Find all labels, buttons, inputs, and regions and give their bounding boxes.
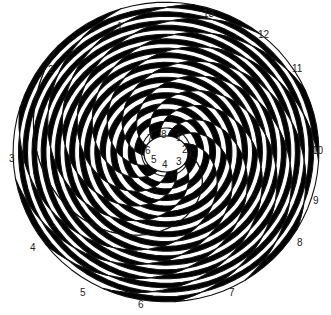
outer-spiral-label: 2 (48, 65, 54, 75)
inner-spiral-label: 4 (162, 160, 168, 170)
inner-spiral-label: 8 (161, 130, 167, 140)
outer-spiral-label: 13 (203, 9, 214, 19)
inner-spiral-label: 2 (182, 145, 188, 155)
outer-spiral-label: 5 (80, 288, 86, 298)
outer-spiral-label: 1 (117, 22, 123, 32)
outer-spiral-label: 9 (313, 196, 319, 206)
inner-spiral-label: 1 (176, 133, 182, 143)
inner-spiral-label: 7 (147, 134, 153, 144)
phyllotaxis-diagram (0, 0, 331, 315)
inner-spiral-label: 6 (145, 146, 151, 156)
inner-spiral-label: 3 (176, 157, 182, 167)
outer-spiral-label: 3 (9, 154, 15, 164)
inner-spiral-label: 5 (151, 155, 157, 165)
outer-spiral-label: 4 (30, 243, 36, 253)
outer-spiral-label: 6 (138, 300, 144, 310)
outer-spiral-label: 10 (312, 146, 323, 156)
outer-spiral-label: 7 (229, 288, 235, 298)
outer-spiral-label: 12 (258, 30, 269, 40)
outer-spiral-label: 8 (297, 238, 303, 248)
outer-spiral-label: 11 (292, 64, 302, 74)
